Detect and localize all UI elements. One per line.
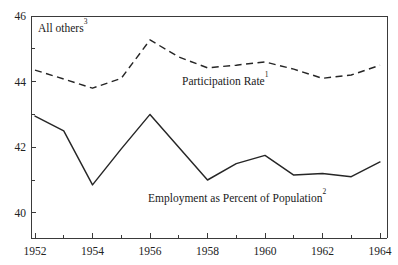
y-tick-label: 46 [15,10,27,22]
all-others-label-text: All others [38,22,84,34]
x-tick-label: 1964 [369,245,392,257]
x-tick-label: 1958 [196,245,219,257]
y-tick-label: 42 [15,141,27,153]
x-tick-label: 1960 [254,245,277,257]
participation-rate-label-text: Participation Rate [182,75,265,88]
chart-figure: 40424446 1952195419561958196019621964 Al… [0,0,398,265]
y-tick-label: 44 [15,76,27,88]
x-tick-label: 1962 [311,245,334,257]
employment-percent-label-superscript: 2 [322,187,326,196]
chart-background [0,0,398,265]
employment-percent-label-text: Employment as Percent of Population [148,192,323,205]
x-tick-label: 1956 [139,245,162,257]
all-others-label-superscript: 3 [84,17,88,26]
participation-rate-label-superscript: 1 [265,70,269,79]
x-tick-label: 1954 [81,245,104,257]
line-chart-svg: 40424446 1952195419561958196019621964 Al… [0,0,398,265]
y-tick-label: 40 [15,207,27,219]
x-tick-label: 1952 [24,245,47,257]
